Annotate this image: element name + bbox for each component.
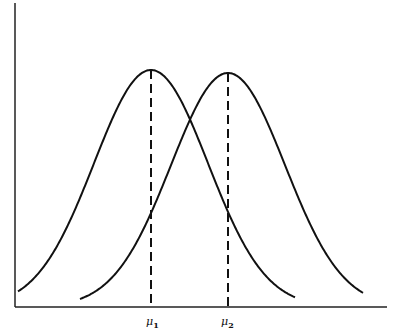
- curve-distribution-2: [80, 73, 363, 299]
- mu1-label: μ1: [146, 315, 159, 330]
- normal-distributions-chart: [0, 0, 406, 336]
- mu1-subscript: 1: [153, 320, 159, 330]
- mu2-label: μ2: [221, 315, 234, 330]
- curve-distribution-1: [18, 70, 295, 297]
- mu2-subscript: 2: [228, 320, 234, 330]
